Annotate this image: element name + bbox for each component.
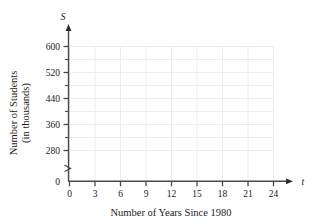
y-tick-label-600: 600 xyxy=(46,42,61,52)
x-axis-arrowhead xyxy=(286,178,293,184)
y-axis-variable-label: S xyxy=(61,11,66,22)
x-tick-label-12: 12 xyxy=(167,189,177,199)
x-axis-ticks xyxy=(70,181,274,186)
y-axis-title-line2: (in thousands) xyxy=(20,83,32,143)
x-tick-label-21: 21 xyxy=(243,189,253,199)
x-axis-title: Number of Years Since 1980 xyxy=(110,207,231,218)
x-axis-variable-label: t xyxy=(302,176,305,187)
x-tick-label-0: 0 xyxy=(67,189,72,199)
y-axis-title-line1: Number of Students xyxy=(8,71,19,156)
y-axis-major-ticks xyxy=(64,47,69,151)
y-tick-label-280: 280 xyxy=(46,146,61,156)
y-axis-arrowhead xyxy=(66,24,72,31)
x-tick-label-18: 18 xyxy=(218,189,228,199)
y-axis-tick-labels: 600 520 440 360 280 0 xyxy=(46,42,61,187)
coordinate-plane-chart: S t 600 520 440 360 280 0 0 3 6 9 12 15 … xyxy=(0,0,316,223)
y-tick-label-360: 360 xyxy=(46,120,61,130)
x-tick-label-9: 9 xyxy=(144,189,149,199)
y-tick-label-440: 440 xyxy=(46,94,61,104)
x-tick-label-3: 3 xyxy=(93,189,98,199)
y-tick-label-520: 520 xyxy=(46,68,61,78)
x-axis-tick-labels: 0 3 6 9 12 15 18 21 24 xyxy=(67,189,278,199)
x-tick-label-15: 15 xyxy=(192,189,202,199)
x-tick-label-6: 6 xyxy=(118,189,123,199)
y-axis-title: Number of Students (in thousands) xyxy=(8,71,32,156)
x-tick-label-24: 24 xyxy=(269,189,279,199)
y-tick-label-0: 0 xyxy=(55,177,60,187)
chart-container: S t 600 520 440 360 280 0 0 3 6 9 12 15 … xyxy=(0,0,316,223)
